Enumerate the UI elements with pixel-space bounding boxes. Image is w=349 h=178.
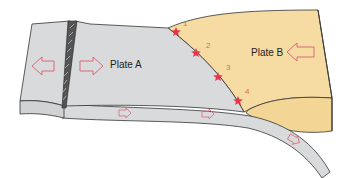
plate-a-left-top — [20, 21, 70, 106]
plate-subduction-diagram: Plate A Plate B 1234 — [0, 0, 349, 178]
plate-b-label: Plate B — [251, 47, 284, 58]
earthquake-number: 4 — [245, 87, 250, 96]
earthquake-number: 2 — [206, 41, 211, 50]
plate-a-label: Plate A — [110, 59, 142, 70]
earthquake-number: 1 — [183, 19, 188, 28]
earthquake-number: 3 — [226, 63, 231, 72]
